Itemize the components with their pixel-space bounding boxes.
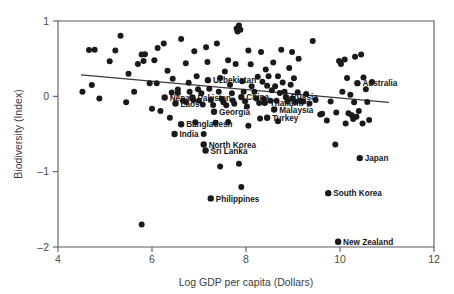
data-point	[296, 56, 302, 62]
data-point	[222, 68, 228, 74]
data-point	[126, 71, 132, 77]
data-point	[352, 54, 358, 60]
data-point	[270, 59, 276, 65]
data-point-labeled	[172, 100, 178, 106]
data-point-labeled	[264, 115, 270, 121]
data-point	[286, 65, 292, 71]
data-point	[92, 47, 98, 53]
data-point	[342, 56, 348, 62]
data-point	[161, 41, 167, 47]
x-tick-label: 8	[243, 253, 249, 265]
y-tick-label: 1	[43, 15, 49, 27]
point-label: Laos	[181, 100, 201, 109]
data-point	[310, 38, 316, 44]
scatter-plot-figure: 468101210–1–2 UzbekistanNepalPakistanChi…	[0, 0, 454, 294]
x-tick-label: 4	[55, 253, 61, 265]
data-point	[79, 89, 85, 95]
y-tick-label: –1	[37, 165, 49, 177]
x-axis-title: Log GDP per capita (Dollars)	[179, 276, 314, 288]
data-point	[282, 89, 288, 95]
data-point	[86, 47, 92, 53]
data-point	[275, 73, 281, 79]
data-point	[258, 49, 264, 55]
point-labels-group: UzbekistanNepalPakistanChinaRussiaLaosTh…	[161, 76, 397, 247]
data-point	[201, 131, 207, 137]
data-point	[107, 58, 113, 64]
data-point	[131, 89, 137, 95]
data-point	[236, 161, 242, 167]
data-point	[155, 45, 161, 51]
data-point-labeled	[325, 190, 331, 196]
data-point	[272, 83, 278, 89]
point-label: Uzbekistan	[213, 76, 256, 85]
data-point	[214, 41, 220, 47]
data-point	[264, 83, 270, 89]
data-point	[347, 92, 353, 98]
data-point	[356, 108, 362, 114]
data-point	[167, 115, 173, 121]
data-point	[141, 58, 147, 64]
data-point	[210, 102, 216, 108]
y-tick-label: 0	[43, 90, 49, 102]
data-point-labeled	[357, 155, 363, 161]
data-point	[231, 101, 237, 107]
plot-canvas: 468101210–1–2 UzbekistanNepalPakistanChi…	[0, 0, 454, 294]
data-point-labeled	[208, 195, 214, 201]
data-point	[263, 67, 269, 73]
data-point-labeled	[171, 131, 177, 137]
data-point	[324, 117, 330, 123]
data-point	[344, 75, 350, 81]
data-point	[332, 142, 338, 148]
data-point	[233, 61, 239, 67]
data-point	[170, 76, 176, 82]
data-point	[289, 49, 295, 55]
data-point	[360, 120, 366, 126]
data-point	[328, 99, 334, 105]
data-point	[186, 80, 192, 86]
data-point	[206, 86, 212, 92]
data-point	[135, 61, 141, 67]
data-point	[225, 57, 231, 63]
data-point	[343, 120, 349, 126]
data-point	[112, 47, 118, 53]
data-point	[280, 79, 286, 85]
data-point	[147, 80, 153, 86]
data-point	[288, 82, 294, 88]
point-label: Japan	[365, 154, 389, 163]
data-point-labeled	[202, 147, 208, 153]
data-point	[149, 106, 155, 112]
data-point	[266, 73, 272, 79]
data-point	[178, 36, 184, 42]
data-point	[123, 99, 129, 105]
point-label: Pakistan	[197, 94, 231, 103]
data-point-labeled	[335, 239, 341, 245]
data-point-labeled	[271, 106, 277, 112]
data-point	[353, 114, 359, 120]
data-point	[257, 116, 263, 122]
data-point	[245, 123, 251, 129]
data-point	[96, 96, 102, 102]
point-label: South Korea	[333, 189, 382, 198]
point-label: Bangladesh	[186, 120, 232, 129]
data-point-labeled	[238, 94, 244, 100]
data-point	[194, 73, 200, 79]
data-point-labeled	[201, 141, 207, 147]
data-point	[118, 33, 124, 39]
data-point	[278, 47, 284, 53]
data-point	[248, 61, 254, 67]
data-point	[364, 99, 370, 105]
data-point-labeled	[262, 100, 268, 106]
point-label: Turkey	[272, 114, 299, 123]
data-point	[319, 111, 325, 117]
data-point	[333, 110, 339, 116]
data-point	[204, 59, 210, 65]
data-point-labeled	[161, 94, 167, 100]
point-label: New Zealand	[343, 238, 393, 247]
data-point	[366, 117, 372, 123]
data-point-labeled	[205, 77, 211, 83]
data-point	[291, 75, 297, 81]
data-point	[245, 47, 251, 53]
point-label: Philippines	[216, 195, 260, 204]
data-point	[217, 163, 223, 169]
y-axis-title: Biodiversity (Index)	[12, 89, 24, 178]
